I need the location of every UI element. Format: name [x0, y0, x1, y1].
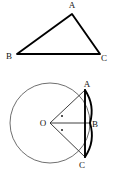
angle-marker-lower-dot [61, 129, 63, 131]
triangle-vertex-label-c: C [101, 53, 107, 63]
geometry-figure-canvas: A B C O A B C [0, 0, 117, 181]
highlighted-arc-a-to-b [85, 90, 92, 123]
circle-point-label-b: B [92, 119, 98, 129]
circle-center-label-o: O [40, 118, 47, 128]
circle-point-label-a: A [84, 79, 91, 89]
radius-o-to-c [50, 123, 85, 157]
triangle-abc-outline [17, 14, 100, 54]
triangle-vertex-label-b: B [6, 51, 12, 61]
angle-marker-upper-dot [61, 115, 63, 117]
triangle-vertex-label-a: A [69, 0, 76, 10]
circle-figure-group: O A B C [10, 79, 98, 170]
geometry-figure-root: A B C O A B C [0, 0, 117, 181]
circle-point-label-c: C [79, 160, 85, 170]
triangle-abc-group: A B C [6, 0, 107, 63]
radius-o-to-a [50, 90, 85, 123]
